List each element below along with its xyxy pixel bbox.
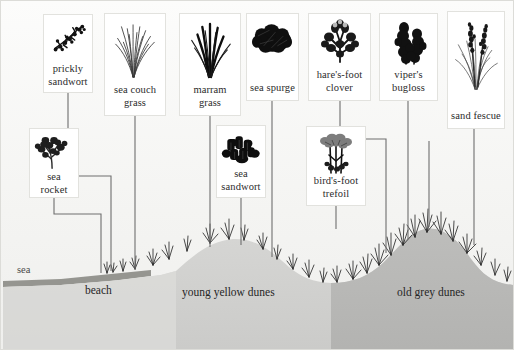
plant-label: sand fescue <box>451 110 501 125</box>
fescue-icon <box>451 16 501 94</box>
plant-card-prickly-sandwort[interactable]: prickly sandwort <box>43 14 93 93</box>
shrub-icon <box>47 19 89 63</box>
plant-label: bird's-foot trefoil <box>310 175 362 202</box>
dense-clump-icon <box>250 18 295 60</box>
plant-card-sea-rocket[interactable]: sea rocket <box>29 128 79 198</box>
plant-card-sea-couch-grass[interactable]: sea couch grass <box>104 13 166 116</box>
plant-label: sea spurge <box>250 82 295 97</box>
plant-card-sea-sandwort[interactable]: sea sandwort <box>216 125 266 198</box>
spike-flower-icon <box>383 18 434 66</box>
plant-card-vipers-bugloss[interactable]: viper's bugloss <box>379 13 438 101</box>
zone-label-young-yellow-dunes: young yellow dunes <box>182 286 275 298</box>
zone-label-beach: beach <box>85 284 112 296</box>
plant-card-marram-grass[interactable]: marram grass <box>179 13 241 116</box>
plant-label: sea rocket <box>33 171 75 198</box>
grass-tuft-icon <box>108 18 162 80</box>
zone-label-sea: sea <box>17 264 30 275</box>
plant-label: marram grass <box>183 84 237 111</box>
umbel-flower-icon <box>310 131 362 175</box>
plant-label: sea sandwort <box>220 168 262 195</box>
plant-card-birds-foot-trefoil[interactable]: bird's-foot trefoil <box>306 126 366 206</box>
plant-label: prickly sandwort <box>47 63 89 90</box>
plant-card-sea-spurge[interactable]: sea spurge <box>246 13 299 101</box>
connector-sea-rocket <box>54 198 101 273</box>
clover-icon <box>312 18 367 64</box>
zone-label-old-grey-dunes: old grey dunes <box>397 286 465 298</box>
plant-card-hares-foot-clover[interactable]: hare's-foot clover <box>308 13 371 101</box>
succulent-icon <box>220 130 262 168</box>
plant-label: viper's bugloss <box>383 69 434 96</box>
dune-succession-figure: prickly sandwort <box>0 0 514 350</box>
grass-blades-icon <box>183 18 237 80</box>
plant-label: hare's-foot clover <box>312 69 367 96</box>
plant-label: sea couch grass <box>108 84 162 111</box>
plant-card-sand-fescue[interactable]: sand fescue <box>447 11 505 129</box>
branched-herb-icon <box>33 133 75 171</box>
